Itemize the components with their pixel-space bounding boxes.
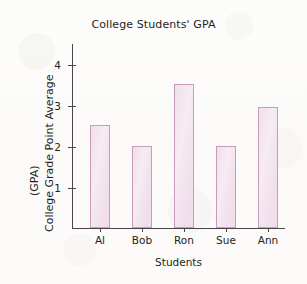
x-axis-tick	[268, 228, 269, 232]
x-axis-tick	[100, 228, 101, 232]
y-axis-tick-label: 1	[54, 182, 61, 194]
x-axis-tick-label: Ron	[163, 234, 205, 246]
y-axis-tick-label: 2	[54, 141, 61, 153]
y-axis-tick-label: 4	[54, 59, 61, 71]
chart-title: College Students' GPA	[0, 18, 307, 31]
y-axis-title: College Grade Point Average	[43, 74, 56, 232]
x-axis-tick	[142, 228, 143, 232]
bars-layer: AlBobRonSueAnn	[73, 44, 285, 228]
bar-bob	[132, 146, 152, 228]
chart-figure: College Students' GPA College Grade Poin…	[0, 0, 307, 284]
x-axis-line	[72, 228, 285, 229]
bar-sue	[216, 146, 236, 228]
x-axis-tick-label: Ann	[247, 234, 289, 246]
y-axis-tick-label: 3	[54, 100, 61, 112]
bar-ron	[174, 84, 194, 228]
x-axis-tick	[184, 228, 185, 232]
x-axis-tick	[226, 228, 227, 232]
y-axis-title-units: (GPA)	[28, 165, 41, 196]
x-axis-tick-label: Al	[79, 234, 121, 246]
plot-area: 1234 AlBobRonSueAnn	[72, 44, 285, 229]
bar-ann	[258, 107, 278, 228]
x-axis-tick-label: Bob	[121, 234, 163, 246]
x-axis-title: Students	[72, 256, 285, 268]
bar-al	[90, 125, 110, 228]
x-axis-tick-label: Sue	[205, 234, 247, 246]
